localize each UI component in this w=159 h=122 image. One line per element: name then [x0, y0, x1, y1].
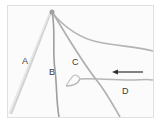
fiber-figure: A B C D [0, 0, 159, 122]
label-b: B [49, 68, 55, 77]
apex-knot [50, 10, 55, 15]
label-d: D [122, 87, 129, 96]
label-c: C [72, 58, 79, 67]
label-a: A [22, 57, 28, 66]
